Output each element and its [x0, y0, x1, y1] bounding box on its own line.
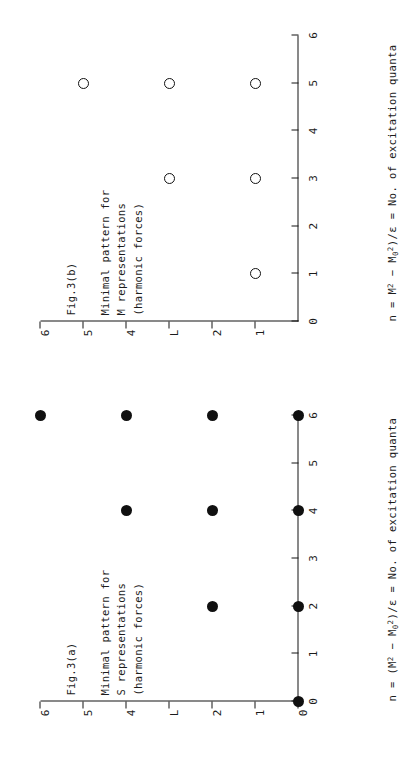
x-axis-tick-label: 3 [307, 555, 318, 562]
y-axis-tick-label: 6 [40, 329, 51, 343]
plot-area-3a: 0123456012L456 [40, 415, 298, 701]
x-axis-tick-label: 2 [307, 602, 318, 609]
y-axis-tick-label: 5 [83, 329, 94, 343]
y-axis-tick [254, 321, 255, 328]
data-point [207, 505, 218, 516]
figure-panel-3b: Fig.3(b) Minimal pattern for M represent… [0, 0, 419, 379]
x-axis-tick [291, 34, 298, 35]
xlabel-mid: − M [385, 256, 397, 283]
y-axis-tick [82, 701, 83, 708]
x-axis-tick-label: 2 [307, 222, 318, 229]
y-axis-tick-label: 6 [40, 709, 51, 723]
x-axis-tick-label: 4 [307, 507, 318, 514]
x-axis-tick [291, 652, 298, 653]
x-axis-tick [291, 462, 298, 463]
data-point [35, 410, 46, 421]
x-axis-tick-label: 1 [307, 650, 318, 657]
data-point [293, 600, 304, 611]
x-axis-tick-label: 5 [307, 459, 318, 466]
data-point [250, 173, 261, 184]
y-axis-tick-label: 2 [212, 709, 223, 723]
data-point [250, 77, 261, 88]
x-axis-tick [291, 177, 298, 178]
data-point [293, 696, 304, 707]
xlabel-sup-2: 2 [385, 619, 394, 624]
x-axis-tick-label: 0 [307, 698, 318, 705]
y-axis-tick [39, 701, 40, 708]
data-point [293, 410, 304, 421]
data-point [293, 505, 304, 516]
y-axis-tick [254, 701, 255, 708]
y-axis-tick [82, 321, 83, 328]
xlabel-prefix: n = M [385, 287, 397, 321]
xlabel-suffix: )/ε = No. of excitation quanta [385, 44, 397, 246]
xlabel-mid: − M [385, 629, 397, 656]
x-axis-tick [291, 129, 298, 130]
y-axis-tick [211, 701, 212, 708]
data-point [207, 410, 218, 421]
data-point [207, 600, 218, 611]
y-axis-tick [39, 321, 40, 328]
x-axis-tick [291, 225, 298, 226]
x-axis-tick [291, 82, 298, 83]
x-axis-tick [291, 557, 298, 558]
y-axis-tick-label: 1 [255, 329, 266, 343]
x-axis-tick-label: 1 [307, 270, 318, 277]
xlabel-prefix: n = (M [385, 661, 397, 701]
y-axis-tick [211, 321, 212, 328]
xlabel-suffix: )/ε = No. of excitation quanta [385, 417, 397, 619]
y-axis-tick-label: 2 [212, 329, 223, 343]
y-axis-tick-label: L [169, 329, 180, 343]
x-axis-tick-label: 5 [307, 79, 318, 86]
x-axis-label-3b: n = M2 − M02)/ε = No. of excitation quan… [385, 21, 399, 321]
x-axis-tick-label: 0 [307, 318, 318, 325]
plot-area-3b: 012345612L456 [40, 35, 298, 321]
y-axis-tick-label: 4 [126, 709, 137, 723]
xlabel-sub: 0 [390, 624, 399, 629]
data-point [121, 410, 132, 421]
x-axis-tick-label: 6 [307, 412, 318, 419]
data-point [164, 173, 175, 184]
xlabel-sup-1: 2 [385, 282, 394, 287]
x-axis-tick-label: 6 [307, 32, 318, 39]
data-point [78, 77, 89, 88]
y-axis-tick [168, 321, 169, 328]
y-axis-tick [125, 321, 126, 328]
y-axis-tick-label: 0 [298, 709, 309, 723]
y-axis-tick-label: 5 [83, 709, 94, 723]
y-axis-tick-label: 1 [255, 709, 266, 723]
data-point [164, 77, 175, 88]
y-axis-tick-label: L [169, 709, 180, 723]
figure-panel-3a: Fig.3(a) Minimal pattern for S represent… [0, 380, 419, 759]
data-point [121, 505, 132, 516]
x-axis-label-3a: n = (M2 − M02)/ε = No. of excitation qua… [385, 401, 399, 701]
scanned-figure-page: Fig.3(a) Minimal pattern for S represent… [0, 0, 419, 759]
x-axis-tick [291, 320, 298, 321]
x-axis-tick-label: 3 [307, 175, 318, 182]
y-axis-tick [125, 701, 126, 708]
x-axis-tick-label: 4 [307, 127, 318, 134]
y-axis-tick [168, 701, 169, 708]
x-axis-tick [291, 272, 298, 273]
data-point [250, 268, 261, 279]
y-axis-tick-label: 4 [126, 329, 137, 343]
